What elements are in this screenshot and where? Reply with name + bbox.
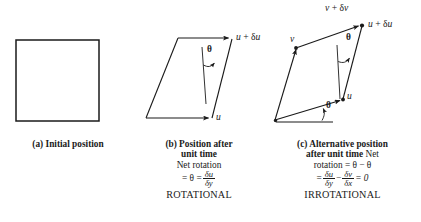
label-b-theta: θ	[207, 44, 212, 54]
caption-c-eq-denominator-2: δx	[342, 178, 354, 188]
label-b-u-plus-du: u + δu	[236, 31, 260, 42]
caption-c-line2b: Net	[366, 149, 379, 159]
label-c-v-plus-dv: v + δv	[325, 2, 348, 13]
vertex-dot-origin	[274, 119, 277, 122]
vertex-dot-u	[341, 98, 345, 102]
caption-b-eq-denominator: δy	[203, 178, 215, 188]
caption-c-line2: after unit time Net	[264, 149, 421, 159]
panel-a-shape	[16, 40, 99, 121]
label-c-theta-top: θ	[346, 32, 351, 42]
caption-c-equation: =δuδy−δvδx= 0	[264, 170, 421, 189]
caption-b-eq-numerator: δu	[203, 170, 215, 179]
caption-c-fraction-1: δuδy	[323, 170, 335, 189]
caption-panel-c: (c) Alternative position after unit time…	[264, 139, 421, 200]
caption-c-line5: IRROTATIONAL	[264, 189, 421, 200]
caption-c-eq-rhs: = 0	[355, 174, 368, 184]
vertex-dot-top-right	[360, 23, 364, 27]
angle-arc-c-bottom	[322, 109, 324, 121]
label-c-theta-bottom: θ	[326, 100, 331, 110]
caption-c-eq-denominator-1: δy	[323, 178, 335, 188]
caption-panel-a: (a) Initial position	[0, 139, 136, 149]
figure-container: u + δu u θ v + δv u + δu v u θ θ (a) Ini…	[0, 0, 421, 222]
caption-b-line3: Net rotation	[132, 160, 266, 170]
caption-c-line3: rotation = θ − θ	[264, 160, 421, 170]
caption-c-eq-operator: −	[336, 174, 341, 184]
label-c-u-plus-du: u + δu	[368, 18, 392, 29]
caption-b-eq-lhs: = θ =	[182, 174, 202, 184]
caption-c-eq-lhs: =	[317, 174, 322, 184]
caption-b-line2: unit time	[132, 149, 266, 159]
label-c-u: u	[347, 90, 352, 101]
panel-b-shape	[146, 38, 232, 118]
initial-square	[16, 40, 99, 121]
parallelogram-c-left-side	[275, 50, 296, 121]
angle-arc-c-top	[338, 58, 349, 62]
caption-panel-b: (b) Position after unit time Net rotatio…	[132, 139, 266, 200]
vertical-reference-line-b	[202, 47, 206, 104]
caption-b-line5: ROTATIONAL	[132, 189, 266, 200]
caption-c-line1: (c) Alternative position	[264, 139, 421, 149]
caption-c-fraction-2: δvδx	[342, 170, 354, 189]
parallelogram-b-left-side	[146, 38, 178, 118]
vertex-dot-v	[294, 46, 298, 50]
caption-b-fraction: δuδy	[203, 170, 215, 189]
caption-a-line1: (a) Initial position	[0, 139, 136, 149]
angle-arc-b	[203, 63, 214, 67]
caption-b-line1: (b) Position after	[132, 139, 266, 149]
vertical-reference-line-c	[337, 45, 340, 99]
caption-c-eq-numerator-2: δv	[342, 170, 354, 179]
caption-c-eq-numerator-1: δu	[323, 170, 335, 179]
label-b-u: u	[216, 111, 221, 122]
label-c-v: v	[290, 33, 294, 44]
parallelogram-b-right-side	[212, 39, 232, 118]
caption-b-equation: = θ =δuδy	[132, 170, 266, 189]
caption-c-line2a: after unit time	[306, 149, 363, 159]
